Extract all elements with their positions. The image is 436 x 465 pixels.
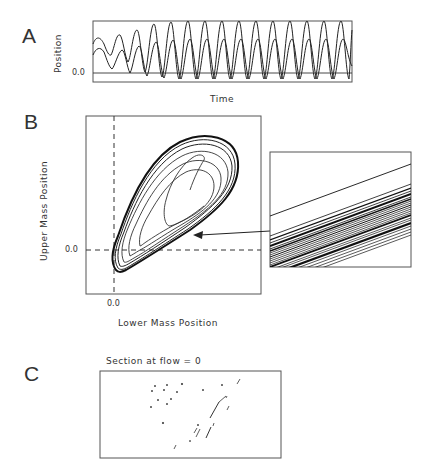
panel-a-plot xyxy=(93,21,352,82)
panel-b-zoom-arrow xyxy=(200,231,270,235)
figure-canvas xyxy=(0,0,436,465)
panel-a-series-upper xyxy=(93,21,352,79)
panel-b-inset xyxy=(270,152,411,287)
panel-c-plot xyxy=(100,371,281,458)
panel-b-plot xyxy=(86,116,270,294)
